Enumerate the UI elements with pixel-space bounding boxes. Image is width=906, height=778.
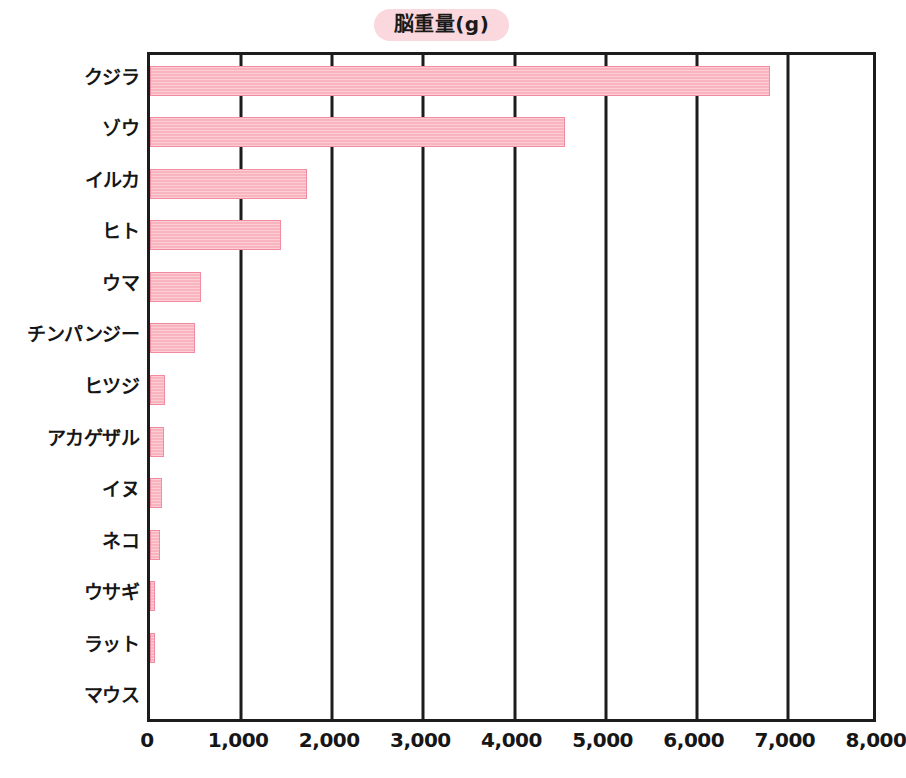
chart-title: 脳重量(g)	[0, 9, 883, 41]
category-label: イヌ	[0, 480, 139, 499]
x-tick-label: 2,000	[299, 730, 360, 750]
bar[interactable]	[150, 633, 155, 663]
category-label: ヒツジ	[0, 377, 139, 396]
bar-row[interactable]	[150, 55, 873, 107]
bar-row[interactable]	[150, 570, 873, 622]
bar[interactable]	[150, 427, 164, 457]
bar[interactable]	[150, 581, 155, 611]
bars-layer	[150, 55, 873, 719]
x-axis-tick-labels: 01,0002,0003,0004,0005,0006,0007,0008,00…	[147, 730, 876, 764]
x-tick-label: 3,000	[390, 730, 451, 750]
category-label: チンパンジー	[0, 325, 139, 344]
bar[interactable]	[150, 169, 307, 199]
category-label: ゾウ	[0, 119, 139, 138]
category-label: ラット	[0, 635, 139, 654]
bar-row[interactable]	[150, 158, 873, 210]
category-label: アカゲザル	[0, 429, 139, 448]
category-axis-labels: クジラゾウイルカヒトウマチンパンジーヒツジアカゲザルイヌネコウサギラットマウス	[0, 52, 139, 722]
category-label: ウマ	[0, 274, 139, 293]
category-label: ヒト	[0, 222, 139, 241]
x-tick-label: 5,000	[572, 730, 633, 750]
plot-area	[147, 52, 876, 722]
x-tick-label: 7,000	[754, 730, 815, 750]
x-tick-label: 6,000	[663, 730, 724, 750]
bar[interactable]	[150, 323, 195, 353]
chart-title-text: 脳重量(g)	[374, 9, 510, 41]
bar-row[interactable]	[150, 107, 873, 159]
category-label: イルカ	[0, 171, 139, 190]
bar-row[interactable]	[150, 467, 873, 519]
bar[interactable]	[150, 117, 565, 147]
bar-row[interactable]	[150, 416, 873, 468]
category-label: クジラ	[0, 68, 139, 87]
category-label: マウス	[0, 686, 139, 705]
bar[interactable]	[150, 66, 770, 96]
bar[interactable]	[150, 375, 165, 405]
category-label: ネコ	[0, 532, 139, 551]
x-tick-label: 4,000	[481, 730, 542, 750]
bar-row[interactable]	[150, 364, 873, 416]
bar-row[interactable]	[150, 519, 873, 571]
bar[interactable]	[150, 478, 162, 508]
bar[interactable]	[150, 220, 281, 250]
bar-row[interactable]	[150, 673, 873, 725]
bar[interactable]	[150, 272, 201, 302]
x-tick-label: 0	[140, 730, 153, 750]
category-label: ウサギ	[0, 583, 139, 602]
bar[interactable]	[150, 530, 160, 560]
x-tick-label: 1,000	[208, 730, 269, 750]
bar-row[interactable]	[150, 210, 873, 262]
bar-row[interactable]	[150, 622, 873, 674]
bar-row[interactable]	[150, 313, 873, 365]
bar-row[interactable]	[150, 261, 873, 313]
x-tick-label: 8,000	[846, 730, 906, 750]
